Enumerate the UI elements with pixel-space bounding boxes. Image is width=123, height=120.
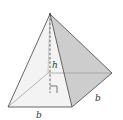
apex-point [49,13,51,15]
square-pyramid-diagram: h b b [0,0,123,120]
base-front-label: b [36,110,42,120]
height-label: h [52,60,58,70]
base-side-label: b [95,93,101,103]
